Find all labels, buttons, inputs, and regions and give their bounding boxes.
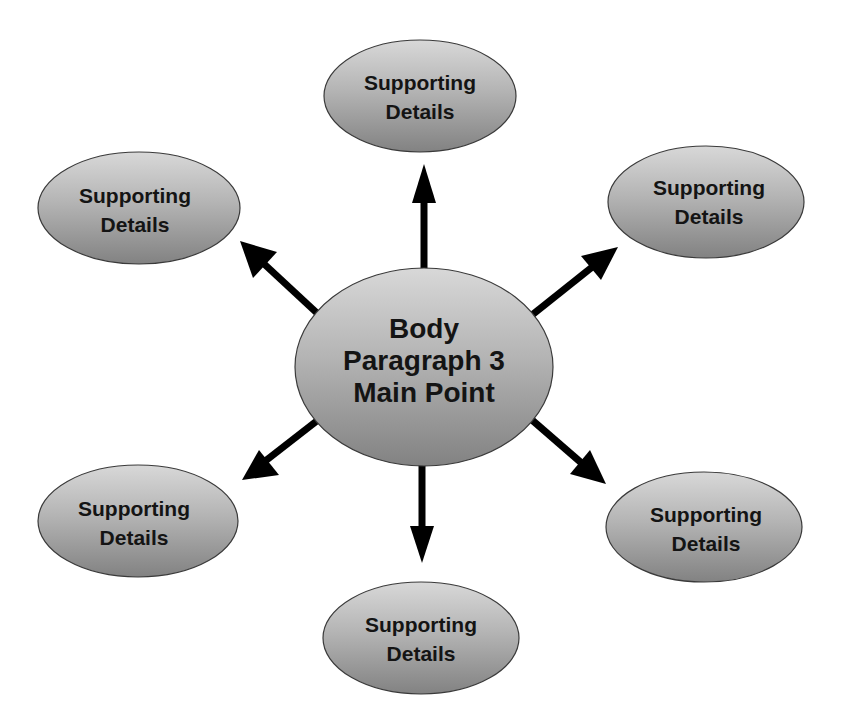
arrow-to-bottom — [410, 465, 434, 563]
node-lower-right-line-1: Supporting — [650, 503, 762, 526]
supporting-details-node-upper-left: Supporting Details — [38, 152, 240, 264]
node-upper-left-line-2: Details — [101, 213, 170, 236]
center-node-line-2: Paragraph 3 — [343, 345, 505, 376]
supporting-details-node-lower-left: Supporting Details — [38, 465, 238, 577]
center-node-line-3: Main Point — [353, 377, 495, 408]
supporting-details-node-lower-right: Supporting Details — [606, 472, 802, 582]
node-lower-right-line-2: Details — [672, 532, 741, 555]
node-bottom-line-1: Supporting — [365, 613, 477, 636]
node-top-line-2: Details — [386, 100, 455, 123]
arrow-to-lower-right — [532, 420, 606, 484]
node-lower-left-line-1: Supporting — [78, 497, 190, 520]
arrow-to-top — [412, 164, 436, 270]
supporting-details-node-top: Supporting Details — [324, 40, 516, 152]
supporting-details-node-bottom: Supporting Details — [323, 582, 519, 694]
mind-map-diagram: Body Paragraph 3 Main Point Supporting D… — [0, 0, 853, 727]
arrow-to-upper-right — [532, 247, 618, 315]
center-node-line-1: Body — [389, 313, 459, 344]
node-upper-right-line-1: Supporting — [653, 176, 765, 199]
supporting-details-node-upper-right: Supporting Details — [608, 146, 804, 258]
node-lower-left-line-2: Details — [100, 526, 169, 549]
center-node-main-point: Body Paragraph 3 Main Point — [295, 268, 553, 466]
node-upper-right-line-2: Details — [675, 205, 744, 228]
node-top-line-1: Supporting — [364, 71, 476, 94]
node-bottom-line-2: Details — [387, 642, 456, 665]
arrow-to-lower-left — [242, 420, 318, 480]
arrow-to-upper-left — [240, 241, 318, 314]
node-upper-left-line-1: Supporting — [79, 184, 191, 207]
